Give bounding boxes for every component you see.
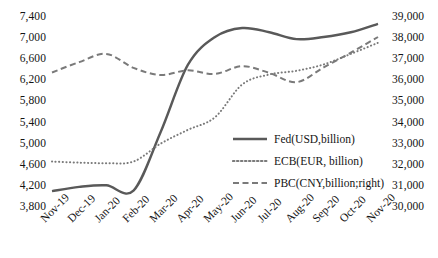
y-axis-right-tick: 31,000 — [392, 179, 438, 191]
y-axis-right-tick: 30,000 — [392, 200, 438, 212]
y-axis-left-tick: 6,600 — [4, 52, 46, 64]
legend-swatch-dotted-icon — [232, 155, 268, 167]
y-axis-left-tick: 5,400 — [4, 116, 46, 128]
legend-label-fed: Fed(USD,billion) — [274, 133, 355, 145]
y-axis-right-tick: 33,000 — [392, 137, 438, 149]
chart-container: 3,8004,2004,6005,0005,4005,8006,2006,600… — [0, 0, 438, 258]
y-axis-right-tick: 32,000 — [392, 158, 438, 170]
legend-item-ecb: ECB(EUR, billion) — [232, 150, 392, 172]
y-axis-right-tick: 35,000 — [392, 94, 438, 106]
y-axis-left-tick: 5,000 — [4, 137, 46, 149]
series-line-pbc — [52, 37, 378, 82]
y-axis-left-tick: 6,200 — [4, 73, 46, 85]
y-axis-left-tick: 3,800 — [4, 200, 46, 212]
legend-item-fed: Fed(USD,billion) — [232, 128, 392, 150]
legend-label-pbc: PBC(CNY,billion;right) — [274, 177, 384, 189]
y-axis-right-tick: 39,000 — [392, 10, 438, 22]
legend-item-pbc: PBC(CNY,billion;right) — [232, 172, 392, 194]
y-axis-right-tick: 37,000 — [392, 52, 438, 64]
chart-legend: Fed(USD,billion) ECB(EUR, billion) PBC(C… — [232, 128, 392, 194]
y-axis-left-tick: 4,600 — [4, 158, 46, 170]
y-axis-left-tick: 5,800 — [4, 94, 46, 106]
y-axis-left-tick: 7,000 — [4, 31, 46, 43]
y-axis-right-tick: 34,000 — [392, 116, 438, 128]
y-axis-right-tick: 36,000 — [392, 73, 438, 85]
legend-label-ecb: ECB(EUR, billion) — [274, 155, 363, 167]
y-axis-left-tick: 4,200 — [4, 179, 46, 191]
y-axis-right-tick: 38,000 — [392, 31, 438, 43]
legend-swatch-dashed-icon — [232, 177, 268, 189]
y-axis-left-tick: 7,400 — [4, 10, 46, 22]
legend-swatch-solid-icon — [232, 133, 268, 145]
